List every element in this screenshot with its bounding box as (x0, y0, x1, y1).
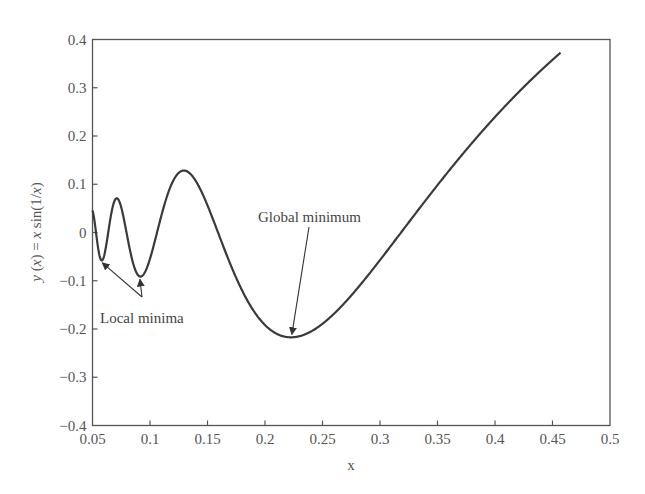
local-minima-label: Local minima (100, 310, 184, 326)
x-tick-label: 0.25 (309, 431, 335, 447)
y-tick-label: −0.1 (59, 273, 86, 289)
local-minimum-arrow (102, 263, 142, 297)
global-minimum-arrow (292, 227, 309, 334)
y-tick-label: −0.3 (59, 369, 86, 385)
x-tick-label: 0.35 (424, 431, 450, 447)
x-tick-label: 0.2 (256, 431, 275, 447)
y-tick-label: −0.4 (59, 418, 87, 434)
x-tick-label: 0.1 (141, 431, 160, 447)
y-tick-label: 0.3 (68, 80, 87, 96)
local-minimum-arrow (140, 280, 142, 297)
x-tick-label: 0.4 (486, 431, 505, 447)
chart-figure: 0.050.10.150.20.250.30.350.40.450.5 0.40… (0, 0, 645, 494)
plot-frame (93, 40, 611, 426)
x-tick-label: 0.15 (194, 431, 220, 447)
global-minimum-label: Global minimum (258, 209, 361, 225)
y-tick-label: 0.4 (68, 32, 87, 48)
y-tick-label: 0 (79, 225, 87, 241)
x-tick-label: 0.5 (601, 431, 620, 447)
y-axis-label: y (x) = x sin(1/x) (28, 182, 45, 283)
x-axis-label: x (347, 457, 355, 473)
annotations: Global minimumLocal minima (100, 209, 361, 334)
x-tick-label: 0.3 (371, 431, 390, 447)
y-tick-label: 0.2 (68, 128, 87, 144)
x-axis-ticks: 0.050.10.150.20.250.30.350.40.450.5 (79, 421, 619, 447)
y-tick-label: 0.1 (68, 176, 87, 192)
y-axis-ticks: 0.40.30.20.10−0.1−0.2−0.3−0.4 (59, 32, 97, 434)
x-tick-label: 0.45 (539, 431, 565, 447)
y-tick-label: −0.2 (59, 321, 86, 337)
function-curve (93, 53, 561, 338)
